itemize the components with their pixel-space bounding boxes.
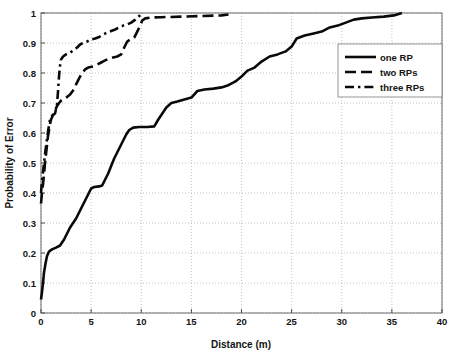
x-axis-title: Distance (m) — [211, 339, 271, 350]
y-tick-label: 0.8 — [23, 68, 36, 79]
x-tick-label: 35 — [387, 316, 398, 327]
legend-label-three-rps: three RPs — [380, 82, 424, 93]
y-tick-label: 0.4 — [23, 188, 37, 199]
y-axis-title: Probability of Error — [4, 117, 15, 208]
y-tick-label: 0.5 — [23, 158, 37, 169]
y-tick-label: 0.3 — [23, 218, 36, 229]
y-tick-labels: 00.10.20.30.40.50.60.70.80.91 — [23, 8, 37, 319]
x-tick-label: 10 — [136, 316, 147, 327]
x-tick-label: 15 — [186, 316, 197, 327]
y-tick-label: 0.9 — [23, 38, 36, 49]
y-tick-label: 0.7 — [23, 98, 36, 109]
y-tick-label: 1 — [31, 8, 37, 19]
y-tick-label: 0.1 — [23, 278, 37, 289]
chart-legend: one RPtwo RPsthree RPs — [338, 44, 442, 97]
cdf-plot: 0510152025303540 00.10.20.30.40.50.60.70… — [0, 0, 459, 357]
legend-label-two-rps: two RPs — [380, 67, 417, 78]
y-tick-label: 0 — [31, 308, 36, 319]
x-tick-label: 25 — [286, 316, 297, 327]
x-tick-label: 20 — [236, 316, 247, 327]
chart-figure: 0510152025303540 00.10.20.30.40.50.60.70… — [0, 0, 459, 357]
x-tick-labels: 0510152025303540 — [38, 316, 447, 327]
y-tick-label: 0.6 — [23, 128, 36, 139]
x-tick-label: 40 — [437, 316, 448, 327]
legend-label-one-rp: one RP — [380, 52, 413, 63]
x-tick-label: 5 — [88, 316, 94, 327]
x-tick-label: 30 — [336, 316, 347, 327]
y-tick-label: 0.2 — [23, 248, 36, 259]
x-tick-label: 0 — [38, 316, 43, 327]
